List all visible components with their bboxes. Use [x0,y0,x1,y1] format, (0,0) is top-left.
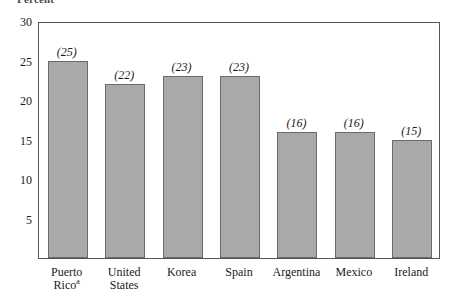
x-category-label-line: States [86,279,162,292]
bar [220,76,260,258]
bar [48,61,88,259]
x-category-label-line: Ireland [373,266,449,279]
bar-series [39,23,439,258]
bar-value-label: (23) [152,60,212,75]
bar-value-label: (15) [381,124,441,139]
y-tick-label: 5 [6,215,32,225]
bar-value-label: (23) [209,60,269,75]
bar-value-label: (22) [94,68,154,83]
y-tick-label: 20 [6,96,32,106]
bar [163,76,203,258]
bar [335,132,375,258]
plot-area [38,22,440,259]
bar-value-label: (16) [324,116,384,131]
chart-container: Percent 30252015105 (25)(22)(23)(23)(16)… [0,0,464,304]
x-category-label: Ireland [373,266,449,279]
bar [392,140,432,259]
bar [277,132,317,258]
footnote-marker: a [76,277,80,286]
y-tick-label: 25 [6,57,32,67]
bar-value-label: (25) [37,45,97,60]
y-axis-label: Percent [17,0,54,5]
bar [105,84,145,258]
y-tick-label: 15 [6,136,32,146]
y-tick-label: 10 [6,175,32,185]
y-tick-label: 30 [6,17,32,27]
bar-value-label: (16) [266,116,326,131]
